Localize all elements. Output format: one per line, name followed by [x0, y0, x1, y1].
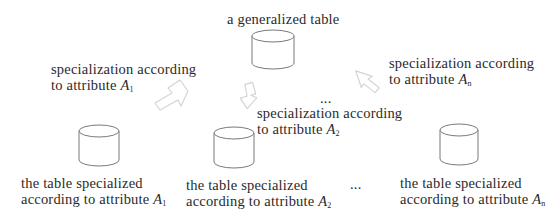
root-label: a generalized table — [227, 11, 339, 27]
root-table-cylinder-icon — [252, 30, 294, 69]
child-table-cylinder-icon-a1 — [79, 125, 119, 166]
child-table-cylinder-icon-a2 — [214, 127, 254, 168]
child-label-a1: the table specialized according to attri… — [21, 175, 167, 212]
child-table-cylinder-icon-an — [440, 124, 478, 165]
arrow-to-an-icon — [354, 71, 381, 93]
middle-ellipsis: ... — [320, 90, 331, 106]
child-label-a2: the table specialized according to attri… — [186, 177, 332, 214]
arrow-to-a2-icon — [237, 82, 259, 109]
edge-label-a2: specialization according to attribute A2 — [257, 105, 402, 142]
edge-label-an: specialization according to attribute An — [389, 55, 534, 92]
bottom-ellipsis: ... — [350, 176, 361, 192]
edge-label-a1: specialization according to attribute A1 — [51, 61, 196, 98]
child-label-an: the table specialized according to attri… — [400, 175, 546, 212]
